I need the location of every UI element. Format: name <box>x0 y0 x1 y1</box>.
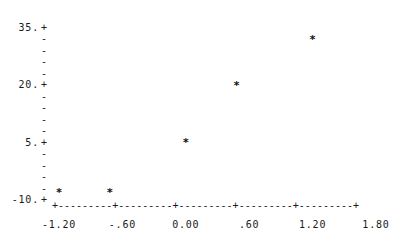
y-axis-tick-label: 35. <box>19 22 39 33</box>
y-axis-minor-tick-row: - <box>0 114 52 125</box>
x-axis-tick-label: .60 <box>239 219 259 231</box>
x-axis-tick-label: -.60 <box>109 219 136 231</box>
data-point-marker[interactable]: * <box>309 33 317 44</box>
y-axis-minor-tick-glyph: - <box>41 171 48 182</box>
y-axis-minor-tick-row: - <box>0 148 52 159</box>
x-axis-line: +---------+---------+---------+---------… <box>52 200 359 211</box>
y-axis: 35.+----20.+----5.+-----10.+ <box>0 0 52 210</box>
y-axis-major-tick-row: 5.+ <box>0 137 52 148</box>
y-axis-minor-tick-glyph: - <box>41 102 48 113</box>
y-axis-tick-label: 20. <box>19 79 39 90</box>
y-axis-minor-tick-glyph: - <box>41 148 48 159</box>
y-axis-minor-tick-glyph: - <box>41 114 48 125</box>
y-axis-major-tick-row: -10.+ <box>0 194 52 205</box>
y-axis-major-tick-glyph: + <box>41 137 48 148</box>
data-point-marker[interactable]: * <box>182 137 190 148</box>
y-axis-minor-tick-glyph: - <box>41 45 48 56</box>
x-axis-tick-label: 1.80 <box>362 219 389 231</box>
y-axis-minor-tick-glyph: - <box>41 33 48 44</box>
y-axis-minor-tick-row: - <box>0 56 52 67</box>
y-axis-minor-tick-glyph: - <box>41 125 48 136</box>
data-point-marker[interactable]: * <box>106 186 114 197</box>
y-axis-minor-tick-glyph: - <box>41 91 48 102</box>
scatter-plot-figure: 35.+----20.+----5.+-----10.+ +---------+… <box>0 0 403 241</box>
data-point-marker[interactable]: * <box>55 186 63 197</box>
x-axis-tick-label: 0.00 <box>172 219 199 231</box>
x-axis-tick-labels: -1.20-.600.00.601.201.80 <box>0 219 403 233</box>
y-axis-major-tick-glyph: + <box>41 194 48 205</box>
y-axis-minor-tick-row: - <box>0 183 52 194</box>
y-axis-minor-tick-row: - <box>0 33 52 44</box>
y-axis-major-tick-glyph: + <box>41 22 48 33</box>
y-axis-major-tick-row: 35.+ <box>0 22 52 33</box>
y-axis-minor-tick-row: - <box>0 68 52 79</box>
y-axis-minor-tick-row: - <box>0 91 52 102</box>
y-axis-minor-tick-row: - <box>0 171 52 182</box>
y-axis-minor-tick-glyph: - <box>41 183 48 194</box>
y-axis-tick-label: 5. <box>25 137 39 148</box>
y-axis-minor-tick-row: - <box>0 45 52 56</box>
x-axis-tick-label: -1.20 <box>42 219 76 231</box>
y-axis-minor-tick-row: - <box>0 160 52 171</box>
x-axis-tick-label: 1.20 <box>299 219 326 231</box>
y-axis-minor-tick-row: - <box>0 102 52 113</box>
y-axis-minor-tick-row: - <box>0 125 52 136</box>
y-axis-minor-tick-glyph: - <box>41 56 48 67</box>
y-axis-minor-tick-glyph: - <box>41 68 48 79</box>
y-axis-major-tick-glyph: + <box>41 79 48 90</box>
y-axis-tick-label: -10. <box>12 194 39 205</box>
y-axis-minor-tick-glyph: - <box>41 160 48 171</box>
data-point-marker[interactable]: * <box>233 79 241 90</box>
y-axis-major-tick-row: 20.+ <box>0 79 52 90</box>
